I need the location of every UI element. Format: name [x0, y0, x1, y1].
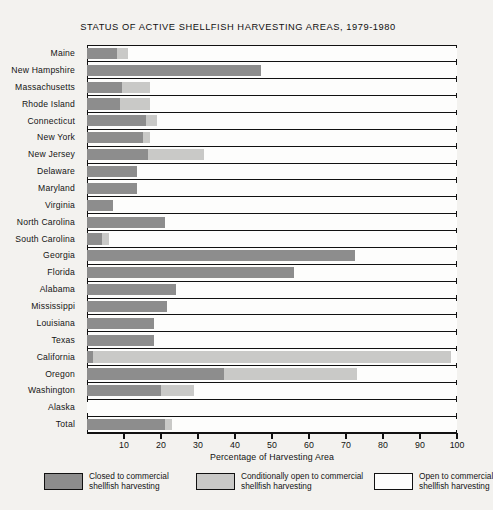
- bar-segment: [150, 98, 457, 109]
- x-axis-tick-label: 100: [450, 440, 465, 450]
- row-divider: [87, 61, 457, 62]
- x-axis-tick: [308, 433, 309, 439]
- y-axis-label-south-carolina: South Carolina: [15, 234, 75, 244]
- bar-segment: [122, 82, 150, 93]
- bar-row: [87, 132, 457, 143]
- chart-legend: Closed to commercialshellfish harvesting…: [44, 472, 464, 502]
- x-axis-tick-label: 20: [156, 440, 166, 450]
- x-axis-tick: [382, 433, 383, 439]
- legend-label: Open to commercialshellfish harvesting: [419, 472, 493, 492]
- bar-row: [87, 166, 457, 177]
- legend-item: Closed to commercialshellfish harvesting: [44, 472, 169, 492]
- bar-segment: [294, 267, 457, 278]
- bar-segment: [224, 368, 357, 379]
- x-axis-tick-label: 90: [415, 440, 425, 450]
- bar-segment: [87, 132, 143, 143]
- bar-segment: [87, 115, 146, 126]
- bar-segment: [157, 115, 457, 126]
- bar-row: [87, 149, 457, 160]
- bar-segment: [117, 48, 128, 59]
- x-axis-tick-label: 40: [230, 440, 240, 450]
- bar-segment: [451, 351, 457, 362]
- bar-row: [87, 233, 457, 244]
- bar-segment: [128, 48, 457, 59]
- bar-segment: [87, 166, 137, 177]
- legend-swatch: [374, 473, 413, 490]
- bar-segment: [87, 233, 102, 244]
- bar-segment: [87, 385, 161, 396]
- bar-row: [87, 419, 457, 430]
- row-divider: [87, 196, 457, 197]
- bar-segment: [87, 250, 355, 261]
- bar-row: [87, 98, 457, 109]
- x-axis-tick-label: 80: [378, 440, 388, 450]
- bar-segment: [120, 98, 150, 109]
- x-axis-tick-label: 70: [341, 440, 351, 450]
- bar-segment: [87, 183, 137, 194]
- y-axis-label-texas: Texas: [52, 335, 75, 345]
- row-divider: [87, 78, 457, 79]
- row-divider: [87, 416, 457, 417]
- bar-segment: [143, 132, 150, 143]
- y-axis-label-louisiana: Louisiana: [36, 318, 75, 328]
- y-axis-label-alaska: Alaska: [48, 402, 75, 412]
- x-axis-tick: [160, 433, 161, 439]
- row-divider: [87, 348, 457, 349]
- bar-row: [87, 385, 457, 396]
- bar-segment: [137, 183, 457, 194]
- row-divider: [87, 146, 457, 147]
- legend-label-line2: shellfish harvesting: [89, 482, 169, 492]
- legend-item: Conditionally open to commercialshellfis…: [196, 472, 363, 492]
- bar-row: [87, 351, 457, 362]
- bar-row: [87, 250, 457, 261]
- bar-segment: [137, 166, 457, 177]
- bar-segment: [87, 65, 261, 76]
- x-axis-tick: [271, 433, 272, 439]
- x-axis-tick-label: 10: [119, 440, 129, 450]
- row-divider: [87, 298, 457, 299]
- row-divider: [87, 213, 457, 214]
- bar-segment: [172, 419, 457, 430]
- row-divider: [87, 179, 457, 180]
- bar-segment: [87, 419, 165, 430]
- y-axis-label-massachusetts: Massachusetts: [15, 82, 75, 92]
- y-axis-label-maryland: Maryland: [38, 183, 75, 193]
- bar-row: [87, 335, 457, 346]
- legend-label: Closed to commercialshellfish harvesting: [89, 472, 169, 492]
- bar-segment: [146, 115, 157, 126]
- y-axis-label-delaware: Delaware: [37, 166, 75, 176]
- bar-row: [87, 267, 457, 278]
- x-axis-title: Percentage of Harvesting Area: [87, 452, 457, 462]
- x-axis-tick: [197, 433, 198, 439]
- bar-segment: [87, 301, 167, 312]
- bar-segment: [87, 284, 176, 295]
- y-axis-label-connecticut: Connecticut: [27, 116, 75, 126]
- row-divider: [87, 247, 457, 248]
- row-divider: [87, 230, 457, 231]
- y-axis-label-rhode-island: Rhode Island: [22, 99, 75, 109]
- bar-segment: [87, 318, 154, 329]
- row-divider: [87, 95, 457, 96]
- y-axis-label-georgia: Georgia: [43, 250, 75, 260]
- legend-label-line2: shellfish harvesting: [241, 482, 363, 492]
- y-axis-category-labels: MaineNew HampshireMassachusettsRhode Isl…: [0, 45, 82, 433]
- bar-segment: [87, 82, 122, 93]
- y-axis-label-virginia: Virginia: [45, 200, 75, 210]
- bar-segment: [150, 132, 457, 143]
- y-axis-label-oregon: Oregon: [45, 369, 75, 379]
- y-axis-label-alabama: Alabama: [40, 284, 75, 294]
- stacked-bars-layer: [87, 45, 457, 433]
- bar-segment: [148, 149, 204, 160]
- legend-item: Open to commercialshellfish harvesting: [374, 472, 493, 492]
- bar-segment: [357, 368, 457, 379]
- bar-segment: [154, 318, 457, 329]
- bar-segment: [93, 351, 452, 362]
- row-divider: [87, 264, 457, 265]
- bar-segment: [102, 233, 109, 244]
- row-divider: [87, 331, 457, 332]
- row-divider: [87, 314, 457, 315]
- row-divider: [87, 281, 457, 282]
- bar-segment: [87, 402, 457, 413]
- bar-segment: [87, 48, 117, 59]
